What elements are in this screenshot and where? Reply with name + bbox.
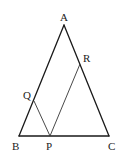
segment-pq: [34, 101, 50, 136]
label-p: P: [46, 140, 52, 152]
segment-pr: [50, 64, 80, 136]
triangle-diagram: A B P C Q R: [0, 0, 125, 160]
label-a: A: [60, 11, 68, 23]
label-q: Q: [23, 89, 31, 101]
side-ac: [64, 25, 109, 136]
label-b: B: [12, 140, 19, 152]
label-c: C: [108, 140, 115, 152]
label-r: R: [83, 52, 91, 64]
